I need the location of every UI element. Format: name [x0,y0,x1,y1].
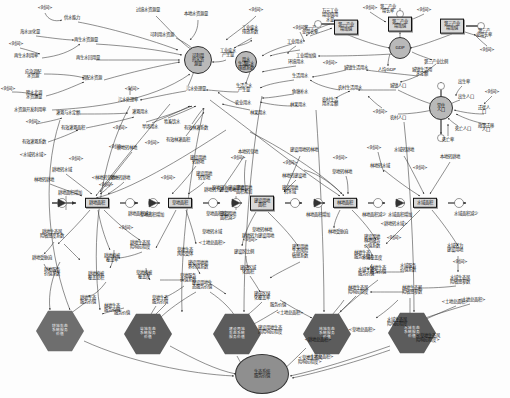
aux-variable[interactable]: 建设用地 面积增加 [236,186,252,195]
aux-variable[interactable]: 本地转草地 [238,150,258,154]
aux-variable[interactable]: <时间> [8,42,23,46]
aux-variable[interactable]: <土地总面积> [441,300,468,304]
aux-variable[interactable]: 应急调配 水资源 [25,70,41,79]
aux-variable[interactable]: <时间> [372,110,387,114]
stock-available-water[interactable]: 可利用 的水资 源量 [184,46,212,74]
aux-variable[interactable]: <时间> [366,146,381,150]
aux-variable[interactable]: <时间> [412,166,427,170]
stock-forest-area[interactable]: 林地面积 [333,198,357,208]
aux-variable[interactable]: 服务价值 [114,311,130,315]
aux-variable[interactable]: 城镇人口 [390,84,406,88]
aux-variable[interactable]: 第一产 业增长率 [302,26,318,35]
aux-variable[interactable]: 水资源开发利用率 [14,108,46,112]
aux-variable[interactable]: 再生水利用率 [14,54,38,58]
aux-variable[interactable]: 建设区比例 [234,250,254,254]
aux-variable[interactable]: <时间> [112,126,127,130]
aux-variable[interactable]: <水域转水域> [19,153,46,157]
aux-variable[interactable]: 建成区绿 化覆盖率 [254,292,270,301]
aux-variable[interactable]: 工业用水 [287,40,303,44]
aux-variable[interactable]: 有效灌溉面积 [61,126,85,130]
aux-variable[interactable]: <土地总面积> [198,241,225,245]
aux-variable[interactable]: <草地生态风 险响应程度> [298,356,322,365]
aux-variable[interactable]: 再生水回用量 [76,56,100,60]
aux-variable[interactable]: <时间> [362,6,377,10]
aux-variable[interactable]: <时间> [386,236,401,240]
aux-variable[interactable]: 草地面积增加 [140,213,164,217]
aux-variable[interactable]: 林地面积减少 [362,213,386,217]
aux-variable[interactable]: <时间> [332,156,347,160]
aux-variable[interactable]: 建设用地 林地服务 价值系数 [364,235,380,248]
aux-variable[interactable]: 水域服务 价值系数 [400,264,416,273]
aux-variable[interactable]: 林地受胁迫 [328,230,348,234]
aux-variable[interactable]: 农村生活用水 [338,86,362,90]
aux-variable[interactable]: <草地总面积> [348,328,375,332]
aux-variable[interactable]: <时间> [118,226,133,230]
aux-variable[interactable]: 跨水北调 水资源量 [26,91,42,100]
aux-variable[interactable]: 农村生活 用水定额 [322,98,338,107]
aux-variable[interactable]: 旱场用水 [142,125,158,129]
aux-variable[interactable]: 可利用水资源 [150,33,174,37]
aux-variable[interactable]: <土地总面积> [276,311,303,315]
aux-variable[interactable]: 本地转耕地 [440,155,460,159]
aux-variable[interactable]: 林地转耕地 [34,178,54,182]
aux-variable[interactable]: 耕地服务 价值系数 [44,268,60,277]
aux-variable[interactable]: <时间> [452,260,467,264]
aux-variable[interactable]: 污水处理率 [118,98,138,102]
aux-variable[interactable]: 死亡率 [442,138,454,142]
aux-variable[interactable]: <时间> [484,90,499,94]
aux-variable[interactable]: <时间> [248,8,263,12]
aux-variable[interactable]: <时间> [124,87,139,91]
aux-variable[interactable]: <时间> [479,48,494,52]
aux-variable[interactable]: 本地水资源量 [184,12,208,16]
aux-variable[interactable]: 草地转林地 [332,170,352,174]
aux-variable[interactable]: 再生水资源量 [74,38,98,42]
aux-variable[interactable]: <时间> [68,157,83,161]
aux-variable[interactable]: 服务价值 [270,303,286,307]
aux-variable[interactable]: 耕地植被 覆盖率 [104,254,120,263]
aux-variable[interactable]: 建设用地 生态风险 敏感系数 [292,245,308,258]
aux-variable[interactable]: 林地面积增加 [306,213,330,217]
aux-variable[interactable]: 草地转耕地 [110,176,130,180]
aux-variable[interactable]: 生活污水 排放系数 [238,62,254,71]
aux-variable[interactable]: 水域生态风 险响应程度 [387,318,407,327]
aux-variable[interactable]: <耕地转水域> [380,222,407,226]
aux-variable[interactable]: 建设用地 转水域 [282,186,298,195]
aux-variable[interactable]: 水域生态风 险敏感参数 [450,276,470,285]
aux-variable[interactable]: 水域转耕地 [394,148,414,152]
aux-variable[interactable]: 耕地生态风 险敏感度系数 [40,230,64,239]
aux-variable[interactable]: <时间> [282,161,297,165]
aux-variable[interactable]: 农村人口 [390,116,406,120]
aux-variable[interactable]: 林地生态风 险响应程度 [348,286,368,295]
aux-variable[interactable]: 耕地转水域 [52,168,72,172]
aux-variable[interactable]: 建设用地生态 风险响应程度 [258,326,282,335]
aux-variable[interactable]: 耕地生态 服务价值 [80,296,96,305]
stock-cropland-area[interactable]: 耕地面积 [85,198,109,208]
stock-grassland-area[interactable]: 草地面积 [168,198,192,208]
aux-variable[interactable]: 牲畜饮水 [164,120,180,124]
aux-variable[interactable]: 生活污水 产生量 [236,84,252,93]
aux-variable[interactable]: 供水能力 [64,16,80,20]
aux-variable[interactable]: <时间> [416,8,431,12]
aux-variable[interactable]: <时间> [242,238,257,242]
aux-variable[interactable]: 有效灌溉系数 [22,140,46,144]
aux-variable[interactable]: 人均GDP [378,68,395,72]
aux-variable[interactable]: 建设用地转林地 [290,148,318,152]
aux-variable[interactable]: 第三产 业增长率 [476,29,492,38]
stock-gdp[interactable]: GDP [389,37,411,59]
stock-resident-population[interactable]: 常住 人口 [429,96,453,120]
aux-variable[interactable]: 出生率 [458,80,470,84]
aux-variable[interactable]: 鱼塘补水 [292,90,308,94]
aux-variable[interactable]: 林地生态风 险敏感参数 [402,286,422,295]
aux-variable[interactable]: <时间> [37,6,52,10]
aux-variable[interactable]: <时间> [98,183,113,187]
aux-variable[interactable]: 建设用地 面积减少 [220,212,236,221]
aux-variable[interactable]: 水域生态 服务价值 [358,268,374,277]
aux-variable[interactable]: <时间> [0,87,15,91]
aux-variable[interactable]: 政策迁移 人口 [478,124,494,133]
aux-variable[interactable]: <时间> [322,61,337,65]
outcome-total-esv[interactable]: 生态系统 服务价值 [235,354,289,394]
aux-variable[interactable]: 建设用地生 态服务价值 [192,281,212,290]
aux-variable[interactable]: 林果用水 [250,111,266,115]
aux-variable[interactable]: 水域面积增加 [388,213,412,217]
aux-variable[interactable]: 城镇生活用 水定额 [412,68,432,77]
